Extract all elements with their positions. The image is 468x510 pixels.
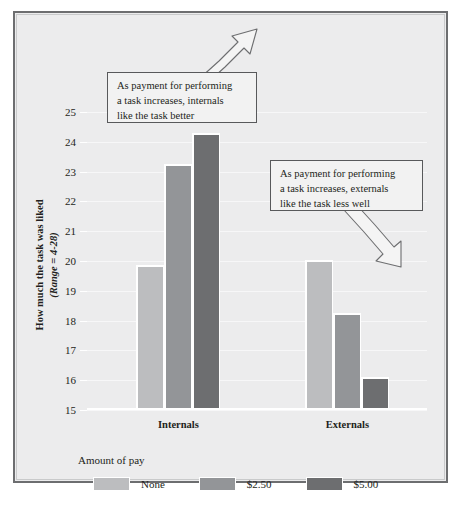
legend-swatch-icon (93, 477, 130, 491)
y-tick-label: 15 (65, 404, 76, 416)
x-axis-label-externals: Externals (326, 419, 369, 430)
chart-panel: How much the task was liked (Range = 4-2… (13, 11, 448, 483)
y-tick-label: 25 (65, 106, 76, 118)
y-tick-label: 19 (65, 285, 76, 297)
x-axis-label-internals: Internals (158, 419, 199, 430)
y-axis-title-range: (Range = 4-28) (48, 232, 59, 297)
annotation-internals: As payment for performing a task increas… (107, 72, 257, 123)
bar-externals-250 (333, 313, 361, 410)
annotation-internals-line-2: a task increases, internals (117, 94, 248, 109)
y-tick-mark (80, 410, 87, 411)
y-tick-label: 16 (65, 374, 76, 386)
x-axis-baseline (87, 408, 427, 410)
legend-item-none[interactable]: None (93, 477, 165, 491)
y-axis-title: How much the task was liked (Range = 4-2… (33, 185, 67, 345)
y-tick-label: 18 (65, 315, 76, 327)
y-tick-label: 23 (65, 166, 76, 178)
annotation-externals-line-1: As payment for performing (280, 167, 414, 182)
legend-swatch-icon (306, 477, 343, 491)
gridline (87, 410, 427, 411)
annotation-internals-line-1: As payment for performing (117, 79, 248, 94)
legend-item-250[interactable]: $2.50 (199, 477, 272, 491)
y-tick-label: 24 (65, 136, 76, 148)
y-tick-label: 21 (65, 225, 76, 237)
y-tick-mark (80, 142, 87, 143)
legend-label: $5.00 (354, 478, 379, 490)
annotation-externals-line-2: a task increases, externals (280, 182, 414, 197)
bar-externals-500 (361, 377, 389, 410)
y-tick-mark (80, 231, 87, 232)
bar-internals-500 (192, 133, 220, 410)
y-tick-label: 22 (65, 195, 76, 207)
legend-item-500[interactable]: $5.00 (306, 477, 379, 491)
y-tick-mark (80, 380, 87, 381)
figure-container: How much the task was liked (Range = 4-2… (0, 0, 468, 510)
bar-internals-none (136, 265, 164, 410)
y-tick-label: 20 (65, 255, 76, 267)
bar-internals-250 (164, 164, 192, 410)
annotation-externals-line-3: like the task less well (280, 197, 414, 212)
legend-swatch-icon (199, 477, 236, 491)
annotation-internals-line-3: like the task better (117, 109, 248, 124)
y-tick-label: 17 (65, 344, 76, 356)
legend-label: None (141, 478, 165, 490)
legend-label: $2.50 (247, 478, 272, 490)
y-tick-mark (80, 201, 87, 202)
gridline (87, 142, 427, 143)
y-tick-mark (80, 112, 87, 113)
annotation-externals: As payment for performing a task increas… (270, 160, 423, 211)
y-tick-mark (80, 350, 87, 351)
y-tick-mark (80, 172, 87, 173)
bar-externals-none (305, 260, 333, 410)
legend-title: Amount of pay (78, 454, 145, 466)
legend: None$2.50$5.00 (93, 477, 412, 491)
y-tick-mark (80, 291, 87, 292)
y-tick-mark (80, 321, 87, 322)
y-axis-title-main: How much the task was liked (34, 200, 45, 331)
y-tick-mark (80, 261, 87, 262)
